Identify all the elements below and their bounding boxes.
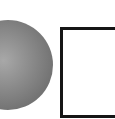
sphere-shape <box>0 20 53 110</box>
square-outline-shape <box>60 27 115 118</box>
